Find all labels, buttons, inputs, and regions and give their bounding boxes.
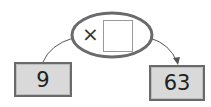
output-connector: [150, 38, 177, 62]
input-box: 9: [14, 62, 72, 97]
input-value: 9: [36, 68, 49, 92]
arrowhead-icon: [173, 57, 180, 65]
output-box: 63: [149, 65, 205, 101]
output-value: 63: [164, 71, 191, 95]
operand-blank-box[interactable]: [103, 20, 133, 52]
input-connector: [43, 38, 73, 62]
multiply-symbol: ×: [82, 24, 99, 44]
